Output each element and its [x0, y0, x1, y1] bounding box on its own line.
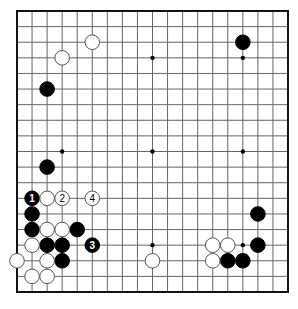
- white-stone-disc: [55, 222, 70, 237]
- star-point: [241, 243, 245, 247]
- black-stone-disc: [55, 253, 70, 268]
- white-stone: [40, 253, 55, 268]
- black-stone: [70, 222, 85, 237]
- star-point: [241, 56, 245, 60]
- black-stone: [236, 35, 251, 50]
- white-stone-disc: [25, 238, 40, 253]
- white-stone-disc: [220, 238, 235, 253]
- white-stone: 2: [55, 191, 70, 206]
- black-stone-disc: [55, 238, 70, 253]
- star-point: [150, 243, 154, 247]
- move-number-label: 1: [29, 193, 35, 204]
- black-stone: [25, 222, 40, 237]
- black-stone: [236, 253, 251, 268]
- black-stone-disc: [220, 253, 235, 268]
- black-stone-disc: [40, 160, 55, 175]
- star-point: [150, 149, 154, 153]
- white-stone: [25, 238, 40, 253]
- black-stone-disc: [40, 238, 55, 253]
- black-stone: [251, 238, 266, 253]
- white-stone-disc: [10, 253, 25, 268]
- star-point: [241, 149, 245, 153]
- move-number-label: 3: [89, 240, 95, 251]
- black-stone: [220, 253, 235, 268]
- black-stone: [40, 82, 55, 97]
- white-stone: 4: [85, 191, 100, 206]
- black-stone: [55, 253, 70, 268]
- white-stone-disc: [40, 253, 55, 268]
- white-stone: [55, 222, 70, 237]
- move-number-label: 4: [89, 193, 95, 204]
- white-stone-disc: [205, 253, 220, 268]
- black-stone-disc: [40, 82, 55, 97]
- black-stone: 3: [85, 238, 100, 253]
- white-stone: [205, 253, 220, 268]
- white-stone: [40, 191, 55, 206]
- white-stone-disc: [85, 35, 100, 50]
- white-stone: [10, 253, 25, 268]
- white-stone: [145, 253, 160, 268]
- star-point: [150, 56, 154, 60]
- white-stone: [205, 238, 220, 253]
- white-stone-disc: [40, 222, 55, 237]
- star-point: [60, 149, 64, 153]
- black-stone: [55, 238, 70, 253]
- go-board: 1324: [0, 0, 298, 309]
- black-stone: [251, 207, 266, 222]
- black-stone-disc: [236, 253, 251, 268]
- black-stone: 1: [25, 191, 40, 206]
- white-stone-disc: [40, 191, 55, 206]
- move-number-label: 2: [59, 193, 65, 204]
- white-stone: [25, 269, 40, 284]
- black-stone: [40, 160, 55, 175]
- white-stone-disc: [55, 51, 70, 66]
- white-stone-disc: [145, 253, 160, 268]
- black-stone-disc: [251, 238, 266, 253]
- white-stone: [40, 269, 55, 284]
- white-stone-disc: [25, 269, 40, 284]
- white-stone: [55, 51, 70, 66]
- white-stone: [220, 238, 235, 253]
- black-stone: [25, 207, 40, 222]
- black-stone-disc: [25, 222, 40, 237]
- black-stone: [40, 238, 55, 253]
- white-stone: [40, 222, 55, 237]
- black-stone-disc: [251, 207, 266, 222]
- black-stone-disc: [25, 207, 40, 222]
- black-stone-disc: [236, 35, 251, 50]
- black-stone-disc: [70, 222, 85, 237]
- white-stone-disc: [40, 269, 55, 284]
- white-stone-disc: [205, 238, 220, 253]
- white-stone: [85, 35, 100, 50]
